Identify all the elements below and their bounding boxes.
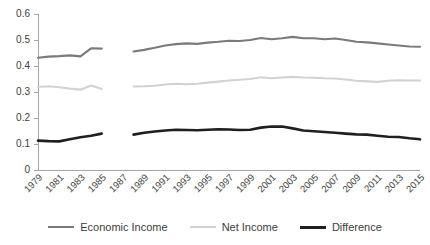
legend-swatch-icon	[48, 226, 74, 228]
x-tick-label: 2001	[255, 172, 278, 195]
y-tick-label: 0	[24, 164, 30, 175]
legend-item-net[interactable]: Net Income	[190, 221, 278, 233]
x-tick-label: 2015	[404, 172, 427, 195]
y-tick-label: 0.3	[16, 86, 30, 97]
legend-swatch-icon	[190, 226, 216, 228]
x-tick-label: 1989	[128, 172, 151, 195]
legend-item-economic[interactable]: Economic Income	[48, 221, 167, 233]
x-tick-label: 2011	[362, 172, 384, 194]
x-tick-label: 2009	[340, 172, 363, 195]
series-line-economic-income	[38, 48, 102, 57]
x-tick-label: 2013	[382, 172, 405, 195]
chart-legend: Economic IncomeNet IncomeDifference	[0, 216, 430, 238]
x-tick-label: 2003	[276, 172, 299, 195]
legend-label: Difference	[332, 221, 382, 233]
series-line-difference	[134, 127, 421, 140]
legend-swatch-icon	[300, 226, 326, 229]
x-tick-label: 1995	[191, 172, 214, 195]
x-tick-label: 1983	[64, 172, 87, 195]
line-chart: 00.10.20.30.40.50.6 19791981198319851987…	[0, 0, 430, 245]
x-tick-label: 1991	[149, 172, 172, 195]
legend-label: Net Income	[222, 221, 278, 233]
x-tick-labels: 1979198119831985198719891991199319951997…	[22, 172, 427, 195]
series-line-economic-income	[134, 37, 421, 52]
y-tick-label: 0.4	[16, 60, 30, 71]
x-tick-label: 1985	[85, 172, 108, 195]
x-tick-label: 1999	[234, 172, 257, 195]
x-tick-label: 2007	[319, 172, 342, 195]
legend-label: Economic Income	[80, 221, 167, 233]
x-tick-label: 1997	[213, 172, 236, 195]
x-tick-label: 1993	[170, 172, 193, 195]
legend-item-diff[interactable]: Difference	[300, 221, 382, 233]
y-tick-label: 0.1	[16, 138, 30, 149]
series-line-net-income	[38, 86, 102, 90]
x-tick-label: 1981	[43, 172, 66, 195]
series-lines	[38, 37, 420, 142]
y-tick-label: 0.5	[16, 34, 30, 45]
y-tick-label: 0.2	[16, 112, 30, 123]
series-line-net-income	[134, 77, 421, 87]
chart-plot-area: 00.10.20.30.40.50.6 19791981198319851987…	[0, 0, 430, 205]
x-tick-label: 1987	[107, 172, 130, 195]
y-axis: 00.10.20.30.40.50.6	[16, 8, 38, 175]
y-tick-label: 0.6	[16, 8, 30, 19]
series-line-difference	[38, 134, 102, 142]
x-tick-label: 2005	[298, 172, 321, 195]
